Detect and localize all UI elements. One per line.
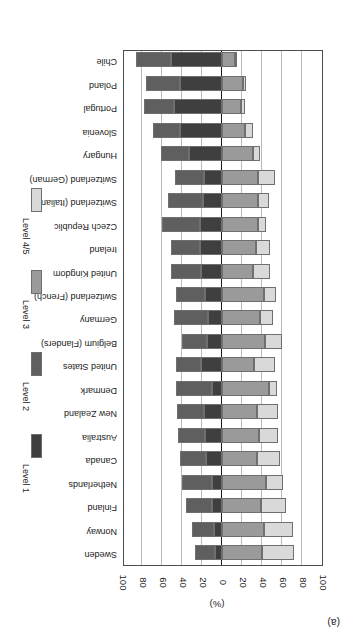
axis-tick-label: 40 xyxy=(178,570,189,596)
bar-group xyxy=(124,96,322,119)
bar-group xyxy=(124,354,322,377)
bar-segment xyxy=(200,217,222,232)
axis-tick-label: 40 xyxy=(258,570,269,596)
category-label: Portugal xyxy=(83,97,123,120)
bar-segment xyxy=(192,522,214,537)
axis-tick-label: 100 xyxy=(318,570,329,596)
bar-segment xyxy=(222,498,261,513)
category-label: United Kingdom xyxy=(53,261,123,284)
category-label: Canada xyxy=(85,449,123,472)
bar-segment xyxy=(214,522,222,537)
bar-segment xyxy=(253,146,260,161)
bar-segment xyxy=(207,334,222,349)
legend-label: Level 1 xyxy=(21,464,31,534)
bar-segment xyxy=(235,52,237,67)
bar-segment xyxy=(161,146,189,161)
bar-segment xyxy=(178,428,205,443)
chart-legend: Level 1Level 2Level 3Level 4/5 xyxy=(1,162,51,492)
bar-group xyxy=(124,166,322,189)
bar-segment xyxy=(201,264,222,279)
bar-segment xyxy=(222,52,235,67)
bar-segment xyxy=(222,451,257,466)
bar-segment xyxy=(180,451,206,466)
legend-swatch xyxy=(31,270,42,294)
bar-segment xyxy=(168,193,203,208)
category-label: Hungary xyxy=(83,144,123,167)
bar-group xyxy=(124,260,322,283)
category-label: Belgium (Flanders) xyxy=(41,331,123,354)
bar-segment xyxy=(171,240,200,255)
category-label: United States xyxy=(63,355,123,378)
figure-rotator: (a) (%) 10080604020020406080100 SwedenNo… xyxy=(0,0,351,642)
bar-segment xyxy=(212,498,222,513)
bar-segment xyxy=(203,193,222,208)
bar-segment xyxy=(205,428,222,443)
bar-segment xyxy=(146,76,180,91)
bar-segment xyxy=(204,170,222,185)
bar-segment xyxy=(195,545,215,560)
axis-tick-label: 0 xyxy=(218,570,229,596)
bar-segment xyxy=(222,217,258,232)
bar-group xyxy=(124,237,322,260)
bar-segment xyxy=(258,217,266,232)
bar-segment xyxy=(212,475,222,490)
bar-segment xyxy=(258,170,275,185)
category-label: Netherlands xyxy=(68,472,123,495)
bar-segment xyxy=(258,193,269,208)
bar-segment xyxy=(222,123,245,138)
bar-segment xyxy=(180,76,222,91)
bar-group xyxy=(124,471,322,494)
bar-segment xyxy=(222,193,258,208)
bar-segment xyxy=(201,357,222,372)
bar-segment xyxy=(177,404,204,419)
bar-group xyxy=(124,330,322,353)
bar-group xyxy=(124,377,322,400)
category-label: Finland xyxy=(87,496,123,519)
bar-segment xyxy=(245,123,253,138)
legend-item[interactable]: Level 4/5 xyxy=(1,176,51,246)
bar-segment xyxy=(182,334,207,349)
bar-group xyxy=(124,542,322,565)
legend-swatch xyxy=(31,352,42,376)
category-label: Denmark xyxy=(80,378,123,401)
chart-figure: (a) (%) 10080604020020406080100 SwedenNo… xyxy=(0,0,351,642)
category-label: Ireland xyxy=(89,238,123,261)
bar-segment xyxy=(222,404,257,419)
bar-segment xyxy=(215,545,222,560)
legend-label: Level 4/5 xyxy=(21,218,31,288)
axis-tick-label: 80 xyxy=(298,570,309,596)
bar-segment xyxy=(222,522,264,537)
bar-segment xyxy=(180,123,222,138)
bar-group xyxy=(124,119,322,142)
bar-segment xyxy=(261,498,286,513)
bar-segment xyxy=(175,170,204,185)
bar-group xyxy=(124,213,322,236)
bar-segment xyxy=(257,404,278,419)
bar-segment xyxy=(222,170,258,185)
bar-group xyxy=(124,72,322,95)
bar-group xyxy=(124,307,322,330)
category-label: Sweden xyxy=(84,543,123,566)
bar-segment xyxy=(222,99,241,114)
bar-group xyxy=(124,448,322,471)
bar-segment xyxy=(222,310,260,325)
category-label: New Zealand xyxy=(64,402,123,425)
bar-segment xyxy=(222,146,253,161)
bar-segment xyxy=(253,264,270,279)
bar-segment xyxy=(189,146,222,161)
legend-label: Level 2 xyxy=(21,382,31,452)
panel-letter: (a) xyxy=(327,617,340,628)
bar-segment xyxy=(212,381,222,396)
category-label: Chile xyxy=(96,50,123,73)
category-label: Slovenia xyxy=(82,120,123,143)
bar-segment xyxy=(222,381,269,396)
bar-segment xyxy=(136,52,171,67)
axis-title: (%) xyxy=(187,599,247,610)
category-label: Australia xyxy=(82,425,123,448)
bar-segment xyxy=(254,357,275,372)
bar-segment xyxy=(265,334,282,349)
bar-segment xyxy=(186,498,212,513)
axis-tick-label: 60 xyxy=(278,570,289,596)
bar-segment xyxy=(222,76,243,91)
bar-segment xyxy=(262,545,294,560)
